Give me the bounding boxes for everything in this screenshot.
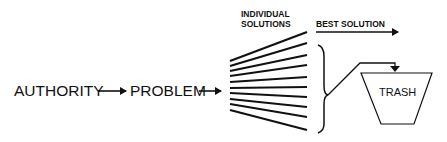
individual-solutions-line2: SOLUTIONS (241, 19, 291, 29)
solution-fan-lines-icon (230, 32, 307, 130)
brace-icon (318, 45, 328, 133)
problem-label: PROBLEM (130, 82, 206, 100)
individual-solutions-line1: INDIVIDUAL (241, 9, 291, 19)
individual-solutions-label: INDIVIDUAL SOLUTIONS (241, 9, 291, 29)
best-solution-label: BEST SOLUTION (316, 19, 385, 29)
authority-label: AUTHORITY (14, 82, 104, 100)
trash-label: TRASH (379, 86, 416, 98)
diagram-canvas: AUTHORITY PROBLEM INDIVIDUAL SOLUTIONS B… (0, 0, 447, 142)
trash-bin-icon (361, 73, 432, 124)
